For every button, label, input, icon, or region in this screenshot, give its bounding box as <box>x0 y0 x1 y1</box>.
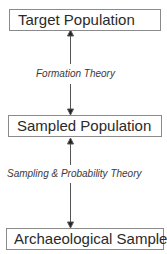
node-target-population: Target Population <box>9 9 161 31</box>
node-archaeological-sample: Archaeological Sample <box>6 228 164 250</box>
edge-label-sampling-probability-theory: Sampling & Probability Theory <box>7 168 142 179</box>
node-label: Sampled Population <box>17 117 151 134</box>
edge-label-formation-theory: Formation Theory <box>36 68 115 79</box>
node-label: Target Population <box>18 11 135 28</box>
node-sampled-population: Sampled Population <box>8 115 162 137</box>
node-label: Archaeological Sample <box>14 230 167 247</box>
